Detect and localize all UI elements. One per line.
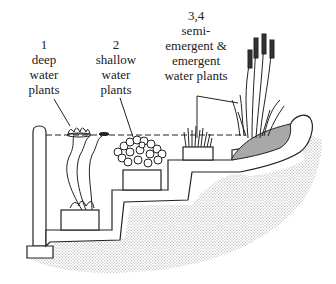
zone-2-line-2: water bbox=[88, 67, 144, 82]
semi-emergent-plant bbox=[184, 126, 212, 147]
deep-water-plant bbox=[67, 128, 109, 210]
zone-1-line-1: deep bbox=[22, 52, 66, 67]
label-zone-1: 1 deep water plants bbox=[22, 37, 66, 97]
zone-2-number: 2 bbox=[88, 37, 144, 52]
zone-2-line-1: shallow bbox=[88, 52, 144, 67]
label-zone-3-4: 3,4 semi- emergent & emergent water plan… bbox=[160, 8, 232, 83]
zone-1-line-3: plants bbox=[22, 82, 66, 97]
zone-3-4-line-1: semi- bbox=[160, 23, 232, 38]
zone-1-line-2: water bbox=[22, 67, 66, 82]
zone-3-4-number: 3,4 bbox=[160, 8, 232, 23]
zone-2-line-3: plants bbox=[88, 82, 144, 97]
zone-1-number: 1 bbox=[22, 37, 66, 52]
deep-water-pot bbox=[61, 210, 99, 230]
shallow-water-plant bbox=[114, 136, 166, 167]
zone-3-4-line-3: emergent bbox=[160, 53, 232, 68]
zone-3-4-line-4: water plants bbox=[160, 68, 232, 83]
semi-emergent-pot bbox=[183, 147, 213, 160]
zone-3-4-line-2: emergent & bbox=[160, 38, 232, 53]
emergent-cattails bbox=[232, 34, 284, 138]
label-zone-2: 2 shallow water plants bbox=[88, 37, 144, 97]
shallow-water-pot bbox=[123, 170, 161, 190]
